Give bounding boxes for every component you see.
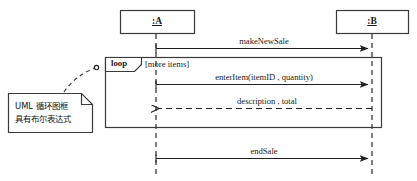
note-box — [9, 94, 93, 133]
message-label-description-total: description , total — [237, 97, 297, 106]
uml-sequence-diagram: :A :B loop [more items] makeNewSale ente… — [0, 0, 417, 181]
note-anchor-line — [64, 69, 94, 93]
loop-operator-label: loop — [111, 59, 127, 69]
note-text-line-2: 具有布尔表达式 — [15, 114, 71, 125]
participant-label-b: :B — [367, 16, 377, 26]
participant-label-a: :A — [152, 16, 162, 26]
note-text-line-1: UML 循环图框 — [15, 101, 68, 112]
note-anchor-circle-icon — [94, 65, 98, 69]
message-label-enteritem: enterItem(itemID , quantity) — [215, 73, 313, 82]
message-label-makenewsale: makeNewSale — [239, 37, 289, 46]
message-label-endsale: endSale — [250, 147, 277, 156]
diagram-canvas — [0, 0, 417, 181]
loop-guard-label: [more items] — [145, 60, 189, 69]
